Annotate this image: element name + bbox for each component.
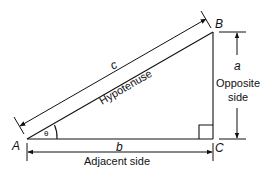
vertex-b-label: B	[215, 17, 223, 31]
opposite-label-line1: Opposite	[216, 77, 260, 89]
vertex-a-label: A	[11, 139, 20, 153]
opposite-symbol: a	[234, 59, 241, 73]
hypotenuse-label: Hypotenuse	[97, 67, 154, 107]
hypotenuse-dimension	[14, 11, 211, 134]
triangle-diagram: A B C c Hypotenuse b Adjacent side a Opp…	[0, 0, 269, 173]
adjacent-label: Adjacent side	[84, 155, 150, 167]
opposite-label-line2: side	[228, 91, 248, 103]
angle-arc	[55, 125, 58, 139]
tick-a-end	[14, 117, 24, 134]
tick-b-end	[201, 11, 211, 28]
angle-theta-symbol: θ	[44, 129, 49, 138]
vertex-c-label: C	[215, 141, 224, 155]
hypotenuse-symbol: c	[107, 58, 119, 73]
right-angle-marker	[199, 125, 213, 139]
adjacent-symbol: b	[116, 140, 123, 154]
